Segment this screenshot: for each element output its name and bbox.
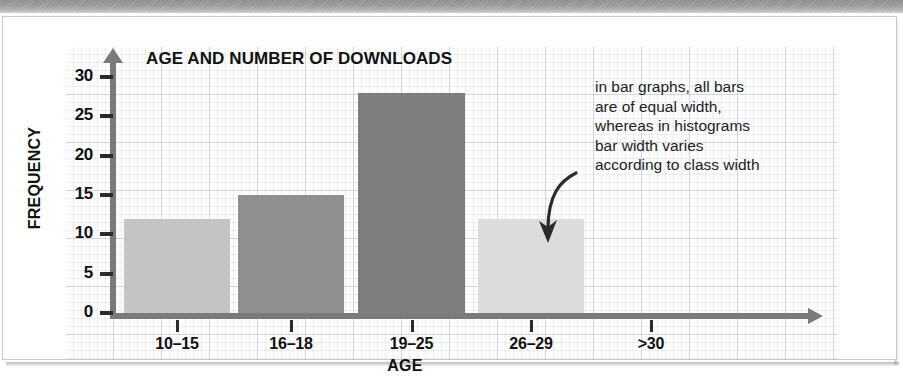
annotation-line: whereas in histograms [595,116,810,136]
x-axis-line [110,313,810,319]
annotation-curved-arrow-icon [498,167,588,257]
y-axis-tick-label: 5 [59,263,93,283]
x-axis-tick [411,320,414,332]
x-axis-tick [290,320,293,332]
annotation-line: according to class width [595,155,810,175]
x-axis-tick-label: 10–15 [117,335,237,353]
x-axis-title: AGE [345,357,465,375]
annotation-note: in bar graphs, all barsare of equal widt… [595,77,810,175]
annotation-line: are of equal width, [595,97,810,117]
y-axis-tick [100,114,113,118]
y-axis-tick-label: 25 [59,105,93,125]
y-axis-tick-label: 30 [59,66,93,86]
bar [124,219,230,314]
x-axis-tick-label: 26–29 [471,335,591,353]
y-axis-tick [100,311,113,315]
y-axis-tick [100,272,113,276]
x-axis-tick-label: 19–25 [352,335,472,353]
y-axis-tick [100,75,113,79]
bar [358,93,465,314]
figure-root: AGE AND NUMBER OF DOWNLOADS FREQUENCY AG… [0,0,903,382]
y-axis-tick-label: 15 [59,184,93,204]
y-axis-title: FREQUENCY [26,118,44,238]
y-axis-tick [100,193,113,197]
bar [238,195,344,313]
y-axis-tick-label: 10 [59,223,93,243]
y-axis-tick [100,154,113,158]
x-axis-tick [176,320,179,332]
y-axis-tick-label: 20 [59,145,93,165]
x-axis-tick [530,320,533,332]
page-top-band [0,0,903,13]
x-axis-tick-label: 16–18 [231,335,351,353]
annotation-line: bar width varies [595,136,810,156]
x-axis-tick [650,320,653,332]
figure-card: AGE AND NUMBER OF DOWNLOADS FREQUENCY AG… [2,16,897,360]
y-axis-tick [100,232,113,236]
y-axis-tick-label: 0 [59,302,93,322]
x-axis-tick-label: >30 [591,335,711,353]
annotation-line: in bar graphs, all bars [595,77,810,97]
